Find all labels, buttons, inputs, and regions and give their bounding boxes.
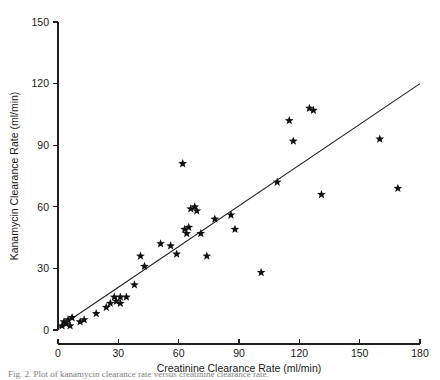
axes-group: 03060901201500306090120150180	[31, 16, 428, 359]
data-point	[317, 190, 326, 198]
axis-labels-group: Creatinine Clearance Rate (ml/min)Kanamy…	[8, 92, 321, 374]
data-point	[122, 293, 131, 301]
data-point	[178, 159, 187, 167]
data-point	[140, 262, 149, 270]
y-axis-title: Kanamycin Clearance Rate (ml/min)	[8, 92, 20, 261]
data-point	[257, 268, 266, 276]
x-tick-label-120: 120	[291, 347, 309, 359]
y-tick-label-150: 150	[31, 16, 49, 28]
y-tick-label-60: 60	[37, 201, 49, 213]
data-point	[156, 239, 165, 247]
data-point	[289, 136, 298, 144]
data-point	[136, 251, 145, 259]
data-point	[202, 251, 211, 259]
data-point	[273, 178, 282, 186]
x-tick-label-90: 90	[233, 347, 245, 359]
x-tick-label-150: 150	[351, 347, 369, 359]
x-tick-label-30: 30	[112, 347, 124, 359]
x-tick-label-60: 60	[173, 347, 185, 359]
data-point	[166, 241, 175, 249]
y-tick-label-30: 30	[37, 262, 49, 274]
y-tick-label-0: 0	[43, 324, 49, 336]
regression-line-group	[58, 84, 420, 328]
regression-line	[58, 84, 420, 328]
figure-caption: Fig. 2. Plot of kanamycin clearance rate…	[8, 369, 438, 380]
x-tick-label-180: 180	[411, 347, 429, 359]
data-point	[130, 280, 139, 288]
data-point	[227, 210, 236, 218]
data-point	[92, 309, 101, 317]
data-point	[394, 184, 403, 192]
x-tick-label-0: 0	[55, 347, 61, 359]
data-point	[375, 134, 384, 142]
data-point	[172, 249, 181, 257]
y-tick-label-120: 120	[31, 77, 49, 89]
data-point	[285, 116, 294, 124]
data-point	[231, 225, 240, 233]
data-points-group	[58, 104, 403, 330]
y-tick-label-90: 90	[37, 139, 49, 151]
